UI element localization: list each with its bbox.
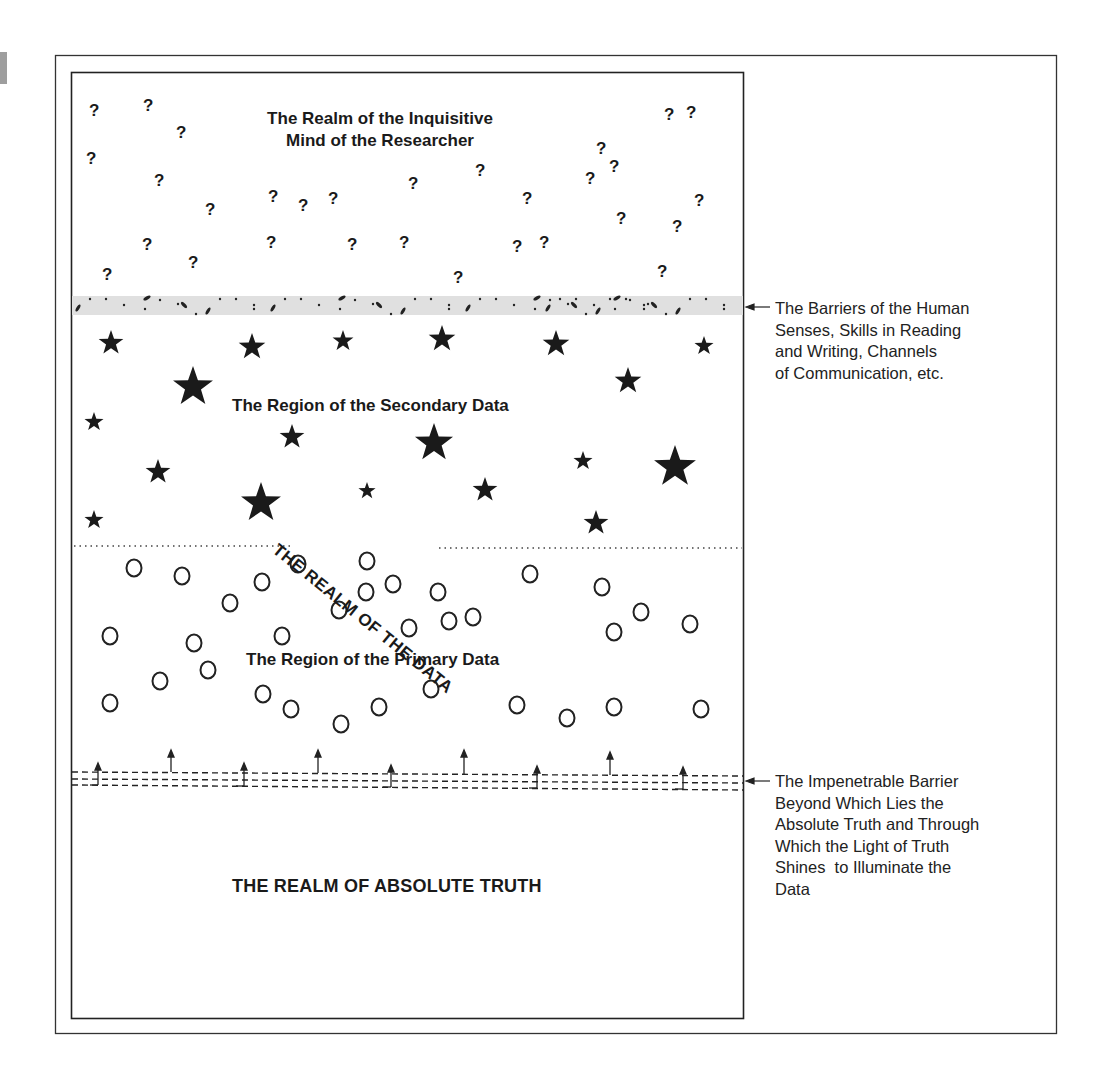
inquisitive-mind-label: The Realm of the Inquisitive Mind of the… (250, 108, 510, 152)
question-mark-icon: ? (89, 102, 99, 119)
impenetrable-barrier-note: The Impenetrable Barrier Beyond Which Li… (775, 771, 979, 900)
impenetrable-barrier (72, 772, 743, 790)
question-mark-icon: ? (408, 175, 418, 192)
note-line: Shines to Illuminate the (775, 857, 979, 879)
inquisitive-mind-label-line1: The Realm of the Inquisitive (250, 108, 510, 130)
note-line: Senses, Skills in Reading (775, 320, 969, 342)
question-mark-icon: ? (475, 162, 485, 179)
question-mark-icon: ? (142, 236, 152, 253)
question-mark-icon: ? (86, 150, 96, 167)
question-mark-icon: ? (657, 263, 667, 280)
note-line: The Impenetrable Barrier (775, 771, 979, 793)
question-mark-icon: ? (188, 254, 198, 271)
question-mark-icon: ? (298, 197, 308, 214)
question-mark-icon: ? (102, 266, 112, 283)
question-mark-icon: ? (609, 158, 619, 175)
senses-barrier-note: The Barriers of the Human Senses, Skills… (775, 298, 969, 384)
question-mark-icon: ? (266, 234, 276, 251)
primary-data-label: The Region of the Primary Data (246, 650, 499, 670)
question-mark-icon: ? (512, 238, 522, 255)
senses-barrier-band (72, 296, 743, 315)
question-mark-icon: ? (143, 97, 153, 114)
secondary-data-label: The Region of the Secondary Data (232, 396, 509, 416)
secondary-data-stars (84, 325, 713, 534)
diagram-graphics (0, 0, 1112, 1082)
question-mark-icon: ? (616, 210, 626, 227)
absolute-truth-label: THE REALM OF ABSOLUTE TRUTH (232, 876, 542, 897)
question-mark-icon: ? (664, 106, 674, 123)
note-line: Absolute Truth and Through (775, 814, 979, 836)
question-mark-icon: ? (205, 201, 215, 218)
diagram-canvas: ? ? ? ? ? ? ? ? ? ? ? ? ? ? ? ? ? ? ? ? … (0, 0, 1112, 1082)
question-mark-icon: ? (672, 218, 682, 235)
callout-arrow-senses (746, 304, 770, 310)
question-mark-icon: ? (686, 104, 696, 121)
question-mark-icon: ? (268, 188, 278, 205)
question-mark-icon: ? (328, 190, 338, 207)
light-of-truth-arrows (90, 750, 686, 789)
question-mark-icon: ? (585, 170, 595, 187)
question-mark-icon: ? (453, 269, 463, 286)
question-mark-icon: ? (399, 234, 409, 251)
note-line: Data (775, 879, 979, 901)
inquisitive-mind-label-line2: Mind of the Researcher (250, 130, 510, 152)
question-mark-icon: ? (347, 236, 357, 253)
note-line: Which the Light of Truth (775, 836, 979, 858)
note-line: The Barriers of the Human (775, 298, 969, 320)
note-line: Beyond Which Lies the (775, 793, 979, 815)
question-mark-icon: ? (176, 124, 186, 141)
question-mark-icon: ? (694, 192, 704, 209)
question-mark-icon: ? (596, 140, 606, 157)
callout-arrow-impenetrable (746, 778, 770, 784)
question-mark-icon: ? (154, 172, 164, 189)
question-mark-icon: ? (522, 190, 532, 207)
note-line: of Communication, etc. (775, 363, 969, 385)
question-mark-icon: ? (539, 234, 549, 251)
note-line: and Writing, Channels (775, 341, 969, 363)
